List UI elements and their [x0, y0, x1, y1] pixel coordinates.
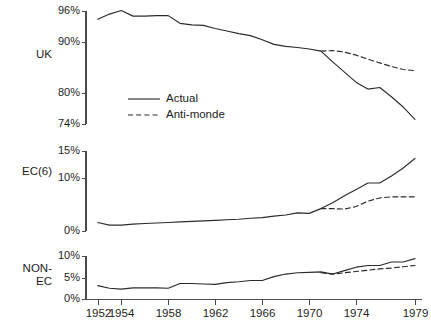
y-tick-label-nonec-0: 10%	[36, 249, 80, 261]
row-label-ec6: EC(6)	[0, 165, 52, 178]
x-tick-label-7: 1979	[392, 307, 431, 319]
y-tick-label-uk-3: 74%	[36, 117, 80, 129]
series-anti-monde-nonec	[321, 265, 415, 274]
y-tick-label-ec6-2: 0%	[36, 224, 80, 236]
y-tick-label-uk-1: 90%	[36, 35, 80, 47]
legend-label-actual: Actual	[166, 92, 198, 104]
x-tick-label-6: 1974	[333, 307, 381, 319]
legend-label-antimonde: Anti-monde	[166, 108, 225, 120]
y-tick-label-uk-0: 96%	[36, 4, 80, 16]
chart-figure: 96%90%80%74%UK15%10%0%EC(6)10%5%0%NON- E…	[0, 0, 431, 330]
series-actual-ec6	[98, 158, 415, 225]
series-anti-monde-uk	[321, 51, 415, 71]
x-tick-label-3: 1962	[192, 307, 240, 319]
row-label-nonec: NON- EC	[0, 262, 52, 287]
x-tick-label-4: 1966	[239, 307, 287, 319]
series-actual-uk	[98, 10, 415, 119]
series-anti-monde-ec6	[321, 197, 415, 209]
x-tick-label-5: 1970	[286, 307, 334, 319]
y-tick-label-ec6-0: 15%	[36, 144, 80, 156]
y-tick-label-uk-2: 80%	[36, 86, 80, 98]
row-label-uk: UK	[0, 48, 52, 61]
y-tick-label-nonec-2: 0%	[36, 292, 80, 304]
x-tick-label-1: 1954	[98, 307, 146, 319]
x-tick-label-2: 1958	[145, 307, 193, 319]
series-actual-nonec	[98, 259, 415, 290]
